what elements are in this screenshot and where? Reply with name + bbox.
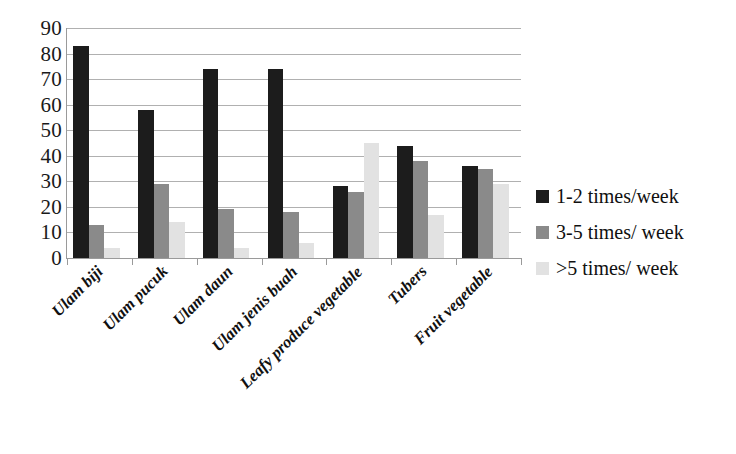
legend-swatch-icon bbox=[536, 226, 549, 239]
bars-layer bbox=[67, 28, 521, 258]
x-axis-category-label: Tubers bbox=[384, 262, 431, 309]
bar-group bbox=[397, 28, 444, 258]
legend-item-label: 1-2 times/week bbox=[556, 186, 679, 206]
x-axis-category-label-text: Leafy produce vegetable bbox=[236, 262, 367, 393]
plot-area bbox=[66, 28, 521, 259]
bar bbox=[169, 222, 185, 258]
bar-chart: 9080706050403020100 Ulam bijiUlam pucukU… bbox=[0, 0, 736, 454]
bar bbox=[413, 161, 429, 258]
bar bbox=[138, 110, 154, 258]
y-axis-tick-label: 50 bbox=[41, 120, 62, 141]
legend-item[interactable]: 3-5 times/ week bbox=[536, 214, 732, 250]
y-axis-tick-label: 10 bbox=[41, 222, 62, 243]
legend-item-label: 3-5 times/ week bbox=[556, 222, 684, 242]
bar bbox=[428, 215, 444, 258]
bar bbox=[478, 169, 494, 258]
bar bbox=[268, 69, 284, 258]
bar bbox=[234, 248, 250, 258]
bar bbox=[462, 166, 478, 258]
bar bbox=[218, 209, 234, 258]
bar-group bbox=[268, 28, 315, 258]
bar bbox=[299, 243, 315, 258]
y-axis-tick-label: 30 bbox=[41, 171, 62, 192]
legend-swatch-icon bbox=[536, 262, 549, 275]
bar bbox=[397, 146, 413, 258]
bar bbox=[154, 184, 170, 258]
bar-group bbox=[462, 28, 509, 258]
y-axis-tick-label: 70 bbox=[41, 69, 62, 90]
bar bbox=[89, 225, 105, 258]
legend-swatch-icon bbox=[536, 190, 549, 203]
bar bbox=[283, 212, 299, 258]
x-axis-category-labels: Ulam bijiUlam pucukUlam daunUlam jenis b… bbox=[66, 262, 536, 412]
bar bbox=[73, 46, 89, 258]
bar bbox=[333, 186, 349, 258]
x-axis-category-label-text: Ulam daun bbox=[169, 262, 237, 330]
bar bbox=[203, 69, 219, 258]
y-axis-tick-label: 60 bbox=[41, 94, 62, 115]
legend-item-label: >5 times/ week bbox=[556, 258, 678, 278]
x-axis-category-label-text: Ulam pucuk bbox=[99, 262, 172, 335]
bar bbox=[104, 248, 120, 258]
bar-group bbox=[138, 28, 185, 258]
x-axis-category-label: Ulam daun bbox=[169, 262, 237, 330]
bar-group bbox=[73, 28, 120, 258]
x-axis-category-label: Ulam pucuk bbox=[99, 262, 172, 335]
y-axis-tick-label: 0 bbox=[51, 248, 62, 269]
y-axis-tick-label: 20 bbox=[41, 196, 62, 217]
chart-legend: 1-2 times/week3-5 times/ week>5 times/ w… bbox=[536, 178, 732, 286]
x-axis-category-label-text: Tubers bbox=[384, 262, 431, 309]
legend-item[interactable]: 1-2 times/week bbox=[536, 178, 732, 214]
legend-item[interactable]: >5 times/ week bbox=[536, 250, 732, 286]
bar-group bbox=[333, 28, 380, 258]
bar bbox=[364, 143, 380, 258]
bar bbox=[493, 184, 509, 258]
y-axis-tick-label: 90 bbox=[41, 18, 62, 39]
x-axis-category-label: Leafy produce vegetable bbox=[236, 262, 367, 393]
y-axis-tick-label: 40 bbox=[41, 145, 62, 166]
bar bbox=[348, 192, 364, 258]
bar-group bbox=[203, 28, 250, 258]
y-axis-tick-labels: 9080706050403020100 bbox=[24, 0, 62, 454]
y-axis-tick-label: 80 bbox=[41, 43, 62, 64]
